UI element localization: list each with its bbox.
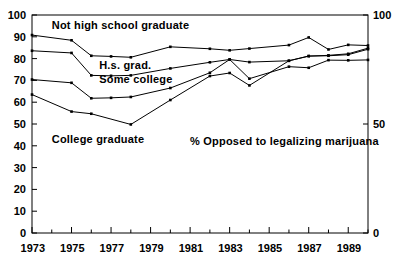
data-point-marker <box>70 39 73 42</box>
data-point-marker <box>130 96 133 99</box>
data-point-marker <box>209 75 212 78</box>
data-point-marker <box>248 77 251 80</box>
data-point-marker <box>288 59 291 62</box>
data-point-marker <box>209 61 212 64</box>
data-point-marker <box>228 49 231 52</box>
x-axis-label-1987: 1987 <box>290 243 330 254</box>
data-point-marker <box>90 97 93 100</box>
data-point-marker <box>228 58 231 61</box>
y-axis-left-label-10: 10 <box>0 206 26 217</box>
x-axis-label-1983: 1983 <box>210 243 250 254</box>
x-axis-label-1979: 1979 <box>131 243 171 254</box>
plot-frame <box>32 15 368 233</box>
series-label-college-graduate: College graduate <box>52 134 144 145</box>
data-point-marker <box>327 59 330 62</box>
data-point-marker <box>307 55 310 58</box>
data-point-marker <box>169 87 172 90</box>
data-point-marker <box>110 97 113 100</box>
data-point-marker <box>248 47 251 50</box>
chart-container: 100 90 80 70 60 50 40 30 20 10 0 100 50 … <box>0 0 403 265</box>
data-point-marker <box>347 59 350 62</box>
y-axis-left-label-100: 100 <box>0 10 26 21</box>
data-point-marker <box>70 82 73 85</box>
data-point-marker <box>90 54 93 57</box>
x-axis-label-1981: 1981 <box>171 243 211 254</box>
data-point-marker <box>90 74 93 77</box>
y-axis-left-label-30: 30 <box>0 163 26 174</box>
data-point-marker <box>367 59 370 62</box>
series-label-not-high-school-graduate: Not high school graduate <box>52 20 189 31</box>
data-point-marker <box>327 54 330 57</box>
data-point-marker <box>288 65 291 68</box>
data-point-marker <box>169 99 172 102</box>
data-point-marker <box>70 110 73 113</box>
data-point-marker <box>169 46 172 49</box>
data-point-marker <box>70 52 73 55</box>
series-label-some-college: Some college <box>99 74 172 85</box>
y-axis-left-label-50: 50 <box>0 119 26 130</box>
y-axis-right-label-100: 100 <box>373 10 403 21</box>
data-point-marker <box>248 84 251 87</box>
data-point-marker <box>228 72 231 75</box>
data-point-marker <box>307 36 310 39</box>
x-axis-label-1973: 1973 <box>13 243 53 254</box>
data-point-marker <box>248 61 251 64</box>
data-point-marker <box>31 49 34 52</box>
data-point-marker <box>327 48 330 51</box>
data-point-marker <box>31 78 34 81</box>
y-axis-right-label-0: 0 <box>373 228 403 239</box>
data-point-marker <box>307 66 310 69</box>
y-axis-left-label-20: 20 <box>0 184 26 195</box>
data-point-marker <box>209 47 212 50</box>
y-axis-right-label-50: 50 <box>373 119 403 130</box>
x-axis-label-1977: 1977 <box>92 243 132 254</box>
data-point-marker <box>347 53 350 56</box>
y-axis-left-label-60: 60 <box>0 97 26 108</box>
x-axis-label-1975: 1975 <box>52 243 92 254</box>
y-axis-left-label-70: 70 <box>0 75 26 86</box>
data-point-marker <box>169 67 172 70</box>
chart-annotation: % Opposed to legalizing marijuana <box>190 136 379 147</box>
series-label-hs-grad: H.s. grad. <box>99 60 151 71</box>
data-point-marker <box>31 93 34 96</box>
y-axis-left-label-90: 90 <box>0 32 26 43</box>
data-point-marker <box>367 44 370 47</box>
data-point-marker <box>31 34 34 37</box>
y-axis-left-label-80: 80 <box>0 54 26 65</box>
data-point-marker <box>288 44 291 47</box>
data-point-marker <box>110 55 113 58</box>
data-point-marker <box>130 123 133 126</box>
data-point-marker <box>90 112 93 115</box>
x-axis-label-1985: 1985 <box>250 243 290 254</box>
y-axis-left-label-40: 40 <box>0 141 26 152</box>
y-axis-left-label-0: 0 <box>0 228 26 239</box>
data-point-marker <box>347 44 350 47</box>
data-point-marker <box>209 71 212 74</box>
x-axis-label-1989: 1989 <box>329 243 369 254</box>
data-point-marker <box>367 47 370 50</box>
